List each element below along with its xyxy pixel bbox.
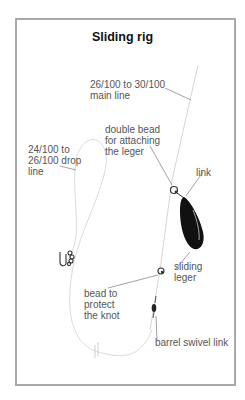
label-drop-line-3: line (28, 166, 81, 177)
label-barrel-swivel: barrel swivel link (155, 337, 228, 348)
leader-bead-knot (108, 275, 158, 288)
label-double-bead-3: the leger (105, 146, 160, 157)
double-bead-icon (171, 187, 178, 194)
label-double-bead: double bead for attaching the leger (105, 124, 160, 157)
label-drop-line: 24/100 to 26/100 drop line (28, 144, 81, 177)
main-line (150, 65, 198, 330)
label-bead-knot-2: protect (84, 299, 120, 310)
label-link-text: link (196, 167, 211, 178)
leader-main-line (165, 88, 191, 100)
label-sliding-leger: sliding leger (174, 261, 202, 283)
label-bead-knot-1: bead to (84, 288, 120, 299)
label-sliding-leger-1: sliding (174, 261, 202, 272)
label-link: link (196, 167, 211, 178)
label-main-line-1: 26/100 to 30/100 (90, 79, 165, 90)
label-double-bead-2: for attaching (105, 135, 160, 146)
label-sliding-leger-2: leger (174, 272, 202, 283)
label-double-bead-1: double bead (105, 124, 160, 135)
label-drop-line-2: 26/100 drop (28, 155, 81, 166)
line-knot-mark (95, 342, 98, 358)
label-bead-knot-3: the knot (84, 310, 120, 321)
label-main-line-2: main line (90, 90, 165, 101)
bead-icon (158, 268, 164, 274)
label-barrel-swivel-text: barrel swivel link (155, 337, 228, 348)
label-bead-knot: bead to protect the knot (84, 288, 120, 321)
hook-icon (60, 251, 74, 266)
label-drop-line-1: 24/100 to (28, 144, 81, 155)
label-main-line: 26/100 to 30/100 main line (90, 79, 165, 101)
sliding-leger-icon (177, 193, 204, 249)
